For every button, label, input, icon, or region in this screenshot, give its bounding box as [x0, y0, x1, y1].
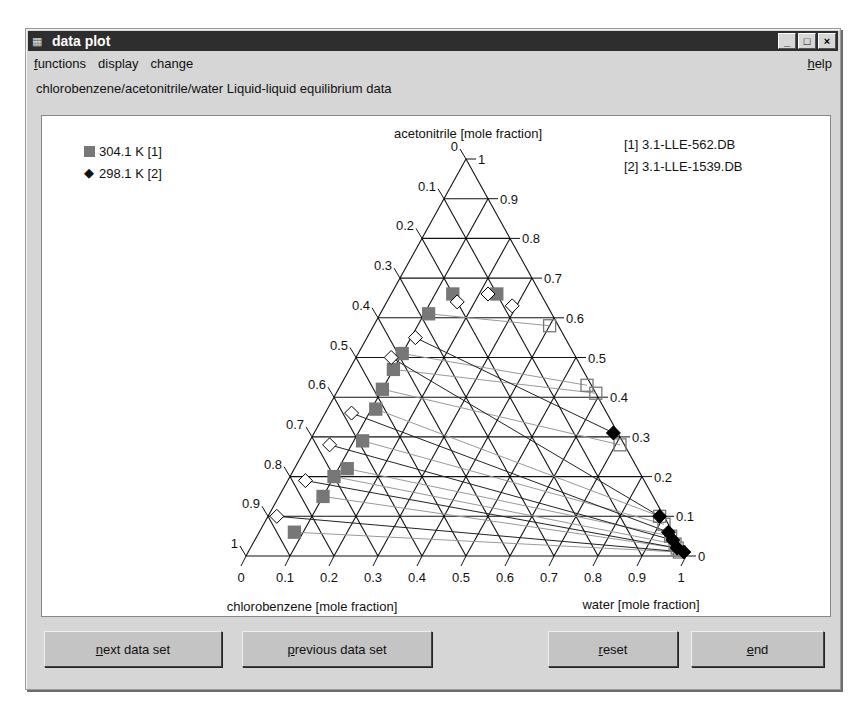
menu-help[interactable]: help [801, 56, 838, 71]
svg-text:0.9: 0.9 [628, 570, 646, 585]
maximize-button[interactable]: □ [798, 33, 816, 49]
svg-text:1: 1 [478, 152, 485, 167]
svg-text:0.7: 0.7 [544, 271, 562, 286]
minimize-button[interactable]: _ [778, 33, 796, 49]
svg-text:0.1: 0.1 [418, 179, 436, 194]
menu-functions[interactable]: functions [28, 56, 92, 71]
svg-text:0.2: 0.2 [396, 218, 414, 233]
menu-display[interactable]: display [92, 56, 144, 71]
svg-text:0.9: 0.9 [242, 496, 260, 511]
close-button[interactable]: × [818, 33, 836, 49]
svg-text:0.8: 0.8 [264, 457, 282, 472]
svg-text:0.3: 0.3 [632, 430, 650, 445]
svg-text:0.6: 0.6 [566, 311, 584, 326]
svg-text:0.5: 0.5 [452, 570, 470, 585]
svg-text:acetonitrile [mole fraction]: acetonitrile [mole fraction] [394, 126, 542, 141]
svg-text:0.4: 0.4 [352, 298, 370, 313]
svg-text:chlorobenzene [mole fraction]: chlorobenzene [mole fraction] [227, 599, 398, 614]
end-button[interactable]: end [691, 631, 824, 667]
plot-area: 304.1 K [1] ◆ 298.1 K [2] [1] 3.1-LLE-56… [41, 115, 831, 617]
svg-text:water [mole fraction]: water [mole fraction] [581, 597, 699, 612]
svg-text:0.8: 0.8 [584, 570, 602, 585]
svg-text:0.1: 0.1 [276, 570, 294, 585]
svg-text:0: 0 [451, 139, 458, 154]
svg-text:0.6: 0.6 [308, 377, 326, 392]
dataset-title: chlorobenzene/acetonitrile/water Liquid-… [36, 81, 392, 96]
svg-text:1: 1 [677, 570, 684, 585]
reset-button[interactable]: reset [548, 631, 678, 667]
svg-text:0.8: 0.8 [522, 231, 540, 246]
svg-text:0.5: 0.5 [588, 351, 606, 366]
ternary-chart: 00.10.20.30.40.50.60.70.80.9110.90.80.70… [42, 116, 830, 616]
svg-text:0.2: 0.2 [654, 470, 672, 485]
svg-text:1: 1 [231, 536, 238, 551]
svg-text:0.7: 0.7 [286, 417, 304, 432]
svg-text:0.9: 0.9 [500, 192, 518, 207]
menu-bar: functions display change help [28, 53, 838, 73]
svg-text:0: 0 [698, 549, 705, 564]
svg-text:0: 0 [237, 570, 244, 585]
svg-text:0.6: 0.6 [496, 570, 514, 585]
svg-text:0.7: 0.7 [540, 570, 558, 585]
title-bar[interactable]: ▦ data plot _ □ × [28, 31, 838, 51]
svg-text:0.2: 0.2 [320, 570, 338, 585]
previous-data-set-button[interactable]: previous data set [242, 631, 432, 667]
svg-text:0.4: 0.4 [610, 390, 628, 405]
svg-text:0.1: 0.1 [676, 509, 694, 524]
svg-text:0.4: 0.4 [408, 570, 426, 585]
svg-text:0.3: 0.3 [364, 570, 382, 585]
app-icon: ▦ [32, 34, 48, 48]
svg-text:0.5: 0.5 [330, 338, 348, 353]
window-title: data plot [52, 33, 110, 49]
data-plot-window: ▦ data plot _ □ × functions display chan… [25, 28, 841, 690]
menu-change[interactable]: change [145, 56, 200, 71]
next-data-set-button[interactable]: next data set [44, 631, 222, 667]
svg-text:0.3: 0.3 [374, 258, 392, 273]
